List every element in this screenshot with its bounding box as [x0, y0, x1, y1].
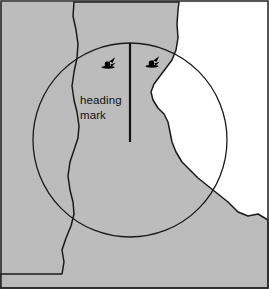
mark-label: mark	[80, 109, 106, 121]
diagram-canvas: heading mark	[0, 0, 269, 289]
radar-heading-mark-figure: heading mark	[0, 0, 269, 289]
heading-label: heading	[80, 94, 122, 106]
